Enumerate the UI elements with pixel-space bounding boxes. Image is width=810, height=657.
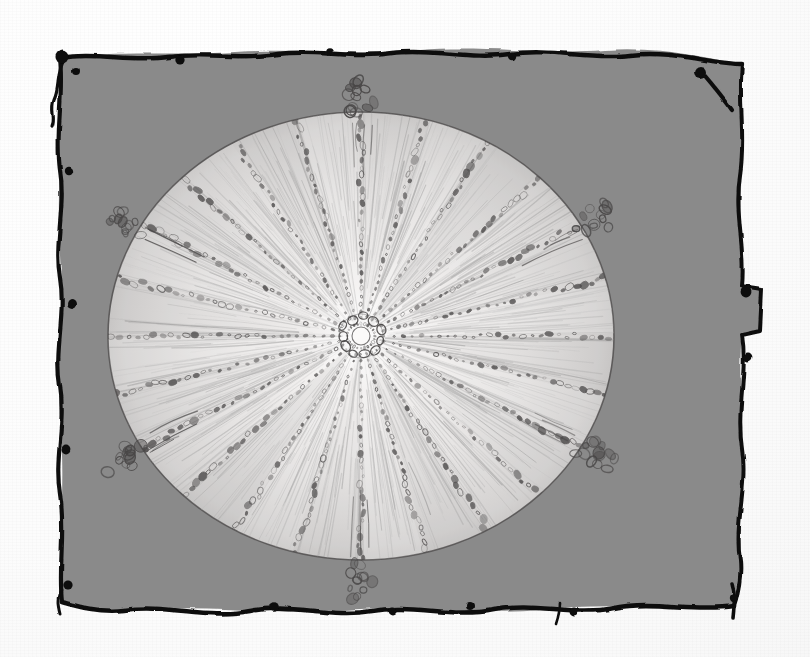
spoke-bead — [330, 334, 335, 338]
spoke-bead — [417, 348, 421, 351]
spoke-bead — [458, 312, 462, 314]
spoke-bead — [145, 382, 152, 387]
spoke-bead — [399, 207, 404, 214]
spoke-bead — [245, 309, 249, 311]
spoke-bead — [389, 237, 393, 241]
ink-blob — [65, 167, 73, 175]
spoke-bead — [360, 347, 361, 349]
spoke-bead — [295, 319, 300, 322]
spoke-bead — [303, 334, 308, 337]
spoke-bead — [339, 264, 342, 269]
spoke-bead — [449, 312, 453, 315]
ink-blob — [175, 55, 184, 64]
spoke-bead — [379, 275, 380, 277]
spoke-bead — [411, 335, 414, 337]
spoke-bead — [360, 257, 363, 261]
spoke-bead — [348, 329, 350, 331]
spoke-bead — [296, 135, 299, 139]
ink-blob — [694, 66, 706, 78]
spoke-bead — [503, 302, 506, 303]
spoke-bead — [313, 345, 316, 348]
ink-blob — [72, 67, 80, 75]
tuft-bead — [582, 442, 589, 449]
spoke-bead — [401, 335, 406, 338]
spoke-bead — [590, 282, 595, 286]
spoke-bead — [496, 304, 499, 306]
spoke-bead — [245, 511, 248, 515]
ink-blob — [269, 602, 279, 612]
spoke-bead — [447, 335, 450, 337]
ink-blob — [63, 580, 72, 589]
ink-blob — [466, 602, 474, 610]
spoke-bead — [550, 379, 557, 384]
ink-blob — [508, 52, 516, 60]
ink-blob — [62, 445, 71, 454]
spoke-bead — [419, 333, 424, 337]
spoke-bead — [381, 409, 385, 414]
spoke-bead — [344, 359, 346, 361]
spoke-bead — [329, 430, 332, 433]
spoke-bead — [362, 503, 364, 507]
spoke-bead — [426, 351, 428, 353]
spoke-bead — [295, 335, 299, 338]
spoke-bead — [373, 338, 375, 340]
spoke-bead — [122, 393, 127, 396]
ink-blob — [730, 594, 738, 602]
spoke-bead — [470, 362, 474, 365]
spoke-bead — [245, 363, 249, 365]
ink-blob — [741, 287, 752, 298]
spoke-bead — [360, 270, 364, 275]
spoke-bead — [430, 336, 433, 338]
spoke-bead — [334, 417, 337, 421]
spoke-bead — [333, 249, 335, 252]
spoke-bead — [136, 336, 141, 339]
spoke-bead — [423, 120, 427, 126]
spoke-bead — [358, 219, 360, 222]
spoke-bead — [322, 208, 325, 213]
spoke-bead — [479, 334, 482, 336]
spoke-bead — [394, 389, 397, 392]
spoke-bead — [360, 279, 363, 283]
spoke-bead — [360, 382, 361, 384]
spoke-bead — [286, 334, 290, 338]
spoke-bead — [533, 376, 537, 379]
spoke-bead — [360, 410, 363, 413]
spoke-bead — [374, 335, 377, 337]
spoke-bead — [370, 344, 372, 346]
spoke-bead — [331, 241, 335, 246]
spoke-bead — [503, 335, 509, 339]
ink-blob — [570, 608, 579, 617]
spoke-bead — [235, 363, 239, 366]
spoke-bead — [208, 369, 211, 371]
spoke-bead — [320, 469, 322, 473]
spoke-bead — [359, 264, 362, 268]
spoke-bead — [350, 368, 352, 370]
spoke-bead — [356, 179, 361, 186]
spoke-bead — [492, 365, 498, 369]
drawing-vector-layer — [0, 0, 810, 657]
spoke-bead — [381, 257, 385, 263]
spoke-bead — [403, 193, 407, 200]
spoke-bead — [512, 334, 515, 336]
spoke-bead — [462, 360, 465, 362]
spoke-bead — [605, 337, 612, 340]
spoke-bead — [314, 189, 317, 195]
ink-blob — [744, 353, 753, 362]
spoke-bead — [308, 380, 311, 383]
ink-blob — [67, 299, 77, 309]
spoke-bead — [360, 366, 362, 369]
ink-blob — [326, 48, 334, 56]
spoke-bead — [442, 315, 448, 319]
spoke-bead — [212, 257, 216, 260]
ink-blob — [56, 51, 69, 64]
spoke-bead — [357, 547, 362, 556]
spoke-bead — [206, 298, 210, 300]
spoke-bead — [341, 396, 344, 401]
spoke-bead — [598, 335, 604, 340]
spoke-bead — [486, 304, 490, 307]
rosette-core — [352, 327, 370, 345]
spoke-bead — [279, 352, 285, 356]
spoke-bead — [306, 167, 309, 172]
ink-blob — [388, 607, 397, 616]
spoke-bead — [227, 368, 231, 370]
